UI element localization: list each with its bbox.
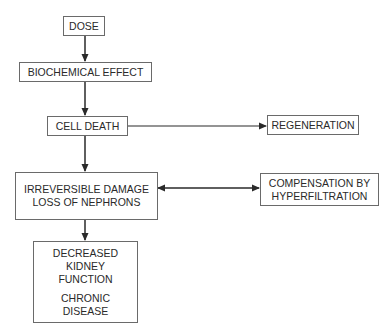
node-irreversible-damage: IRREVERSIBLE DAMAGE LOSS OF NEPHRONS (15, 172, 158, 220)
node-irreversible-damage-line2: LOSS OF NEPHRONS (33, 196, 141, 209)
node-compensation: COMPENSATION BY HYPERFILTRATION (260, 173, 379, 206)
node-decreased-line3: FUNCTION (58, 273, 112, 286)
node-cell-death-label: CELL DEATH (56, 120, 120, 133)
node-decreased-line1: DECREASED (53, 247, 118, 260)
node-biochemical-effect: BIOCHEMICAL EFFECT (19, 62, 152, 82)
node-decreased-line2: KIDNEY (66, 260, 105, 273)
node-compensation-line1: COMPENSATION BY (269, 177, 370, 190)
node-irreversible-damage-line1: IRREVERSIBLE DAMAGE (24, 183, 149, 196)
node-compensation-line2: HYPERFILTRATION (272, 190, 368, 203)
node-dose-label: DOSE (69, 20, 99, 33)
node-dose: DOSE (63, 16, 105, 36)
node-regeneration-label: REGENERATION (271, 119, 354, 132)
node-regeneration: REGENERATION (267, 115, 359, 135)
node-chronic-line1: CHRONIC (61, 292, 110, 305)
node-decreased-kidney-function: DECREASED KIDNEY FUNCTION CHRONIC DISEAS… (33, 241, 138, 323)
node-chronic-line2: DISEASE (63, 305, 109, 318)
node-biochemical-effect-label: BIOCHEMICAL EFFECT (28, 66, 144, 79)
node-cell-death: CELL DEATH (47, 116, 128, 136)
